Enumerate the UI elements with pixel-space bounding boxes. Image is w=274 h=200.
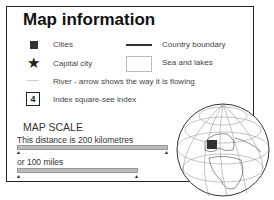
country-boundary-label: Country boundary [162,40,226,49]
scale-km-bar [17,145,168,150]
tick-icon: ▲ [16,149,21,155]
tick-icon: ▲ [164,149,169,155]
scale-km-label: This distance is 200 kilometres [17,135,133,145]
globe-icon [175,102,271,198]
index-label: Index square-see index [53,95,136,104]
scale-miles-label: or 100 miles [17,157,63,167]
country-boundary-line-icon [126,44,152,46]
tick-icon: ▲ [134,173,139,179]
panel-title: Map information [23,10,155,30]
sea-label: Sea and lakes [162,58,213,67]
cities-label: Cities [53,40,73,49]
tick-icon: ▲ [16,173,21,179]
city-square-icon [30,41,38,49]
river-arrow-icon [27,80,39,81]
capital-label: Capital city [53,59,92,68]
scale-miles-bar [17,168,138,173]
index-square-icon: 4 [26,92,40,106]
capital-star-icon: ★ [27,55,40,70]
sea-swatch-icon [126,56,152,72]
river-label: River - arrow shows the way it is flowin… [53,77,195,86]
scale-title: MAP SCALE [23,121,83,133]
